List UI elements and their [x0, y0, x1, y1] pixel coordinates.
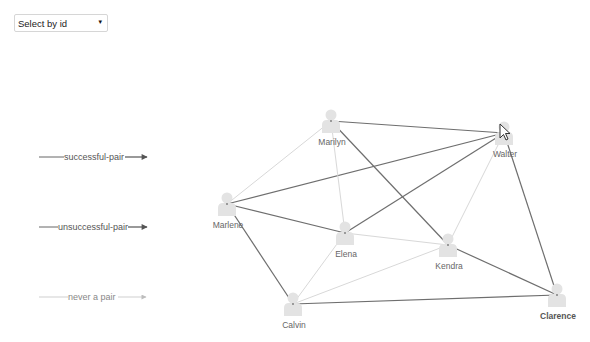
edge-elena-walter	[345, 133, 504, 233]
node-walter[interactable]: Walter	[493, 122, 517, 160]
node-label: Marilyn	[318, 137, 346, 147]
node-label: Walter	[493, 149, 517, 159]
node-label: Clarence	[540, 311, 576, 321]
edge-marlene-calvin	[227, 204, 293, 304]
legend-item-unsuccessful-pair: unsuccessful-pair	[39, 222, 147, 232]
edge-kendra-clarence	[448, 245, 557, 295]
node-anchor	[330, 120, 332, 122]
node-marlene[interactable]: Marlene	[213, 193, 244, 231]
nodes-layer: MarilynWalterMarleneElenaKendraCalvinCla…	[213, 110, 577, 331]
legend-item-never-a-pair: never a pair	[39, 292, 146, 302]
node-anchor	[226, 203, 228, 205]
legend: successful-pair unsuccessful-pair never …	[39, 152, 147, 302]
edge-marilyn-marlene	[227, 121, 331, 204]
node-anchor	[292, 303, 294, 305]
node-marilyn[interactable]: Marilyn	[318, 110, 346, 148]
node-label: Calvin	[282, 320, 306, 330]
network-graph: successful-pair unsuccessful-pair never …	[0, 0, 590, 342]
edge-calvin-clarence	[293, 295, 557, 304]
node-anchor	[447, 244, 449, 246]
edge-marilyn-walter	[331, 121, 504, 133]
node-anchor	[556, 294, 558, 296]
node-calvin[interactable]: Calvin	[282, 293, 306, 331]
edge-marlene-walter	[227, 133, 504, 204]
edge-calvin-kendra	[293, 245, 448, 304]
node-anchor	[344, 232, 346, 234]
legend-label: unsuccessful-pair	[58, 222, 128, 232]
legend-label: never a pair	[68, 292, 116, 302]
node-label: Elena	[335, 249, 357, 259]
node-kendra[interactable]: Kendra	[435, 234, 463, 272]
node-label: Marlene	[213, 220, 244, 230]
legend-item-successful-pair: successful-pair	[39, 152, 147, 162]
edge-marlene-elena	[227, 204, 345, 233]
legend-label: successful-pair	[64, 152, 124, 162]
node-label: Kendra	[435, 261, 463, 271]
edge-elena-kendra	[345, 233, 448, 245]
